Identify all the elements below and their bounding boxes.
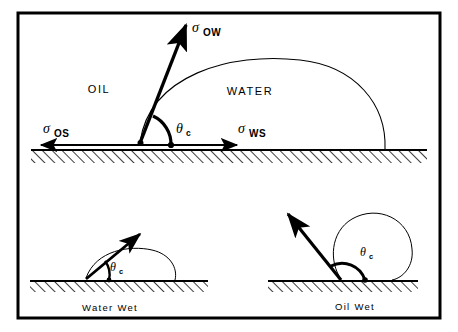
water-wet-theta-terminator xyxy=(107,278,112,283)
sigma-os-symbol: σ xyxy=(43,121,51,136)
oil-wet-theta-symbol: θ xyxy=(360,245,366,259)
sigma-ws-symbol: σ xyxy=(238,121,246,136)
oil-wet-theta-terminator xyxy=(362,277,368,283)
water-wet-caption: Water Wet xyxy=(82,302,138,313)
oil-wet-substrate xyxy=(268,281,418,292)
oil-wet-substrate-hatching xyxy=(268,281,418,292)
sigma-ow-subscript: OW xyxy=(203,27,221,38)
sigma-ow-symbol: σ xyxy=(192,20,200,35)
oil-region-label: OIL xyxy=(88,83,111,95)
oil-wet-caption: Oil Wet xyxy=(335,301,375,312)
sigma-ws-subscript: WS xyxy=(249,128,266,139)
water-region-label: WATER xyxy=(227,85,274,97)
water-wet-theta-symbol: θ xyxy=(110,260,116,274)
main-theta-arc-terminator xyxy=(168,142,174,148)
main-substrate xyxy=(31,150,427,163)
main-theta-symbol: θ xyxy=(176,121,183,136)
water-wet-substrate-hatching xyxy=(30,281,208,292)
contact-angle-figure: OIL WATER σ OW σ OS σ WS θ c xyxy=(0,0,458,332)
oil-wet-theta-subscript: c xyxy=(369,252,373,261)
sigma-os-subscript: OS xyxy=(54,128,69,139)
main-theta-subscript: c xyxy=(186,128,191,138)
main-substrate-hatching xyxy=(31,150,427,163)
main-triple-point xyxy=(138,140,144,146)
water-wet-substrate xyxy=(30,281,208,292)
water-wet-theta-subscript: c xyxy=(119,267,123,276)
